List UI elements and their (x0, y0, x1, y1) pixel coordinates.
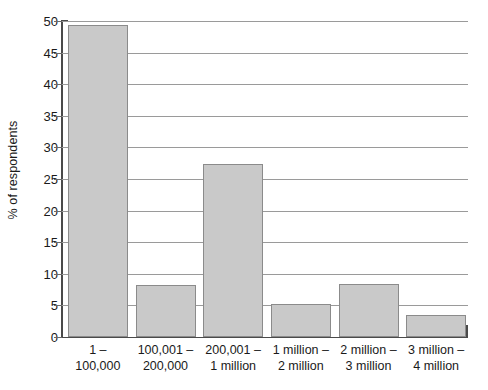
y-axis-tick (54, 305, 62, 306)
x-axis-label-line2: 4 million (396, 358, 476, 374)
y-axis-title: % of respondents (0, 0, 26, 340)
gridline (62, 337, 468, 338)
y-axis-tick (54, 147, 62, 148)
gridline (62, 21, 468, 22)
y-axis-tick (54, 242, 62, 243)
x-axis-label: 3 million –4 million (396, 342, 476, 374)
y-axis-tick (54, 116, 62, 117)
y-axis-tick (54, 21, 62, 22)
bar (406, 315, 466, 337)
bar (136, 285, 196, 337)
bar (339, 284, 399, 337)
bar (203, 164, 263, 337)
y-axis-tick (54, 337, 62, 338)
bar-chart: % of respondents 50454035302520151050 1 … (0, 0, 488, 390)
plot-area (62, 21, 468, 337)
y-axis-title-text: % of respondents (6, 121, 20, 220)
y-axis-tick (54, 53, 62, 54)
bar (68, 25, 128, 337)
y-axis-tick-labels: 50454035302520151050 (26, 0, 58, 390)
x-axis-label-line1: 3 million – (396, 342, 476, 358)
y-axis-tick (54, 179, 62, 180)
y-axis-tick (54, 84, 62, 85)
x-axis-category-labels: 1 –100,000100,001 –200,000200,001 –1 mil… (62, 342, 468, 388)
bar (271, 304, 331, 337)
y-axis-tick (54, 211, 62, 212)
y-axis-tick (54, 274, 62, 275)
